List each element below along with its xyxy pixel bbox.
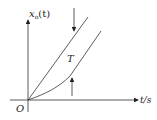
- output-response-curve: [28, 31, 101, 100]
- lag-label: T: [67, 53, 75, 64]
- ramp-input-line: [28, 17, 88, 100]
- x-axis-label: t/s: [140, 95, 152, 105]
- ramp-response-diagram: xo(t) t/s O T: [0, 0, 157, 120]
- origin-label: O: [16, 103, 24, 114]
- y-axis-label: xo(t): [29, 8, 50, 20]
